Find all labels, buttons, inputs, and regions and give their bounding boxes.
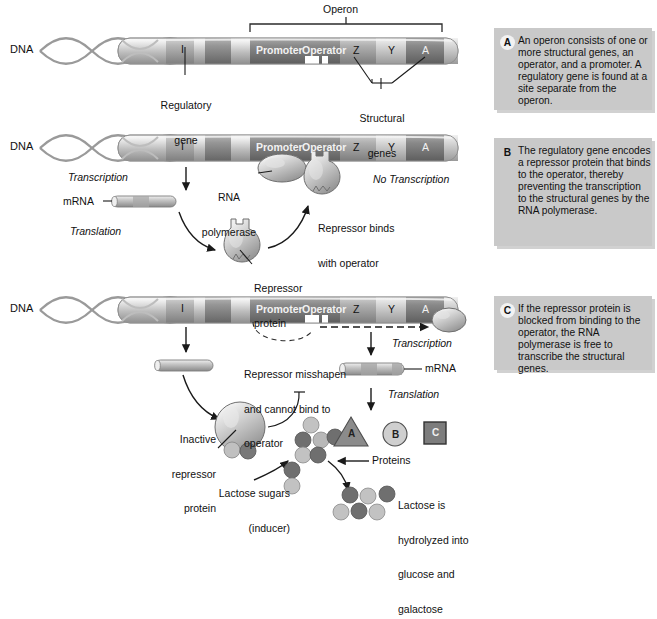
gene-letter-a-c: A <box>422 304 429 316</box>
gene-letter-y-a: Y <box>388 45 395 57</box>
promoter-label-c: Promoter <box>256 304 303 316</box>
protein-letter-c: C <box>432 427 439 439</box>
repressor-binds-line1: Repressor binds <box>318 223 394 235</box>
dna-label-a: DNA <box>10 44 33 56</box>
transcription-label-b: Transcription <box>68 172 128 184</box>
repressor-protein-line2: protein <box>254 318 302 330</box>
hydrolysis-line3: glucose and <box>398 569 490 581</box>
gene-letter-y-b: Y <box>388 142 395 154</box>
operator-label-c: Operator <box>302 304 346 316</box>
hydrolysis-line1: Lactose is <box>398 500 490 512</box>
legend-box-b: B The regulatory gene encodes a represso… <box>494 138 652 246</box>
legend-text-a: An operon consists of one or more struct… <box>518 35 652 108</box>
structural-caption-line1: Structural <box>343 113 421 125</box>
misshapen-line1: Repressor misshapen <box>244 369 394 381</box>
operon-label: Operon <box>323 4 358 16</box>
gene-letter-y-c: Y <box>388 304 395 316</box>
dna-label-c: DNA <box>10 303 33 315</box>
structural-genes-caption: Structural genes <box>343 90 421 182</box>
panel-a-artwork <box>40 17 458 89</box>
gene-letter-z-c: Z <box>353 304 359 316</box>
rna-poly-line1: RNA <box>200 192 258 204</box>
legend-box-a: A An operon consists of one or more stru… <box>494 28 652 110</box>
transcription-label-c: Transcription <box>392 338 452 350</box>
misshapen-line2: and cannot bind to <box>244 404 394 416</box>
mrna-label-b: mRNA <box>63 196 94 208</box>
legend-badge-a: A <box>500 35 515 50</box>
legend-text-b: The regulatory gene encodes a repressor … <box>518 145 652 218</box>
hydrolysis-line2: hydrolyzed into <box>398 535 490 547</box>
lactose-line1: Lactose sugars <box>186 488 290 500</box>
hydrolysis-line4: galactose <box>398 604 490 616</box>
legend-badge-b: B <box>500 145 515 160</box>
promoter-label-a: Promoter <box>256 45 303 57</box>
gene-letter-i-a: I <box>181 44 184 56</box>
regulatory-caption-line2: gene <box>147 135 225 147</box>
rna-polymerase-label-b: RNA polymerase <box>200 169 258 261</box>
regulatory-gene-caption: Regulatory gene <box>147 77 225 169</box>
lactose-line2: (inducer) <box>186 523 290 535</box>
promoter-label-b: Promoter <box>256 142 303 154</box>
repressor-binds-label-b: Repressor binds with operator <box>318 200 394 292</box>
proteins-label: Proteins <box>372 455 411 467</box>
rna-polymerase-blob-c <box>432 308 466 332</box>
legend-box-c: C If the repressor protein is blocked fr… <box>494 296 652 370</box>
legend-text-c: If the repressor protein is blocked from… <box>518 303 652 376</box>
gene-letter-a-b: A <box>422 142 429 154</box>
repressor-protein-line1: Repressor <box>254 283 302 295</box>
gene-letter-i-c: I <box>181 303 184 315</box>
lactose-sugars-label: Lactose sugars (inducer) <box>186 465 290 557</box>
operator-label-a: Operator <box>302 45 346 57</box>
regulatory-caption-line1: Regulatory <box>147 100 225 112</box>
gene-letter-z-b: Z <box>353 142 359 154</box>
repressor-binds-line2: with operator <box>318 258 394 270</box>
translation-label-b: Translation <box>70 226 121 238</box>
protein-letter-b: B <box>392 429 399 441</box>
protein-letter-a: A <box>348 428 355 440</box>
gene-letter-z-a: Z <box>353 45 359 57</box>
translation-label-c: Translation <box>388 389 439 401</box>
repressor-binds-arrow-b <box>268 206 308 248</box>
hydrolysis-label: Lactose is hydrolyzed into glucose and g… <box>398 477 490 619</box>
operon-bracket <box>250 17 442 32</box>
misshapen-line3: operator <box>244 438 394 450</box>
mrna-rod-b <box>112 196 176 207</box>
inactive-line1: Inactive <box>146 434 216 446</box>
dna-label-b: DNA <box>10 141 33 153</box>
mrna-label-c: mRNA <box>425 363 456 375</box>
rna-polymerase-blob-b <box>258 154 306 182</box>
rna-poly-line2: polymerase <box>200 227 258 239</box>
gene-letter-i-b: I <box>181 141 184 153</box>
mrna-rod-c-left <box>155 360 213 371</box>
hydrolysis-product-cluster <box>333 486 395 520</box>
legend-badge-c: C <box>500 303 515 318</box>
gene-letter-a-a: A <box>422 45 429 57</box>
no-transcription-label-b: No Transcription <box>373 174 449 186</box>
operator-label-b: Operator <box>302 142 346 154</box>
